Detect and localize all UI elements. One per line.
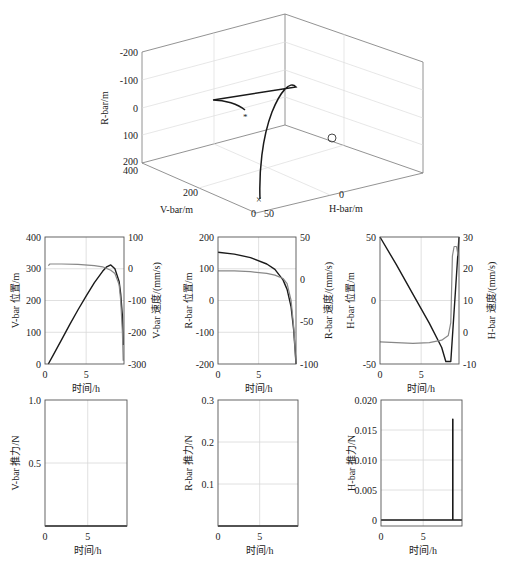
x-axis-label: 时间/h: [245, 382, 273, 394]
y-tick-label: 0.020: [355, 395, 378, 406]
y-right-tick-label: -10: [463, 359, 476, 370]
x-tick-label: 0: [378, 369, 383, 380]
y-tick-label: 0: [371, 295, 376, 306]
plot-frame: [218, 400, 298, 526]
y-tick: 200: [183, 187, 198, 198]
y-tick-label: 400: [26, 232, 41, 243]
y-right-tick-label: 0: [300, 274, 305, 285]
vbar-thrust-plot: 0.51.005V-bar 推力/N时间/h: [9, 395, 127, 557]
y-tick-label: 0.2: [202, 437, 215, 448]
figure-canvas: × * -200 -100 0 100 200 R-bar/m 400 200 …: [0, 0, 508, 569]
x-tick-label: 0: [216, 531, 221, 542]
x-tick-label: 5: [256, 369, 261, 380]
z-tick: 100: [123, 130, 138, 141]
y-right-tick-label: 50: [300, 232, 310, 243]
y-right-tick-label: -100: [300, 359, 318, 370]
y-right-tick-label: 30: [463, 232, 473, 243]
y-tick-label: 0.010: [355, 455, 378, 466]
3d-grid: [142, 33, 423, 195]
series-line: [218, 271, 296, 364]
x-tick-label: 5: [84, 369, 89, 380]
y-tick-label: -50: [363, 359, 376, 370]
z-axis-label: R-bar/m: [99, 91, 110, 125]
y-tick-label: 100: [26, 327, 41, 338]
3d-box: [142, 14, 423, 213]
hbar-position-velocity-plot: -5005005-100102030H-bar 速度/(mm/s)H-bar 位…: [344, 232, 498, 395]
start-marker: ×: [256, 194, 262, 205]
y-right-tick-label: 100: [128, 232, 143, 243]
plot-frame: [381, 400, 462, 526]
y-right-axis-label: R-bar 速度/(mm/s): [322, 262, 335, 339]
y-right-tick-label: 0: [128, 263, 133, 274]
z-tick: -200: [120, 47, 138, 58]
x-tick-label: 5: [257, 531, 262, 542]
y-tick-label: 0.005: [355, 485, 378, 496]
x-tick-label: 5: [419, 369, 424, 380]
series-line: [380, 247, 458, 344]
x-tick-label: 0: [43, 369, 48, 380]
y-tick-label: 0: [209, 295, 214, 306]
x-tick-label: 5: [85, 531, 90, 542]
x-tick-label: 0: [216, 369, 221, 380]
y-tick-label: 0.015: [355, 425, 378, 436]
y-tick-label: 200: [26, 295, 41, 306]
y-tick-label: 50: [366, 232, 376, 243]
y-right-tick-label: -50: [300, 316, 313, 327]
y-axis-label: R-bar 推力/N: [182, 435, 194, 490]
x-axis-label: 时间/h: [74, 544, 102, 556]
y-right-axis-label: V-bar 速度/(mm/s): [150, 262, 163, 339]
trajectory-3d-plot: × * -200 -100 0 100 200 R-bar/m 400 200 …: [99, 14, 423, 219]
y-axis-label: V-bar 推力/N: [9, 436, 21, 491]
hbar-thrust-plot: 00.0050.0100.0150.02005H-bar 推力/N时间/h: [345, 395, 462, 557]
y-right-axis-label: H-bar 速度/(mm/s): [485, 262, 498, 340]
x-axis-label: H-bar/m: [329, 203, 363, 214]
x-tick-label: 0: [379, 531, 384, 542]
trajectory-3d-curve: [213, 80, 296, 199]
y-tick-label: 0.5: [29, 458, 42, 469]
y-tick-label: -100: [196, 327, 214, 338]
y-right-tick-label: -200: [128, 327, 146, 338]
y-tick-label: 200: [199, 232, 214, 243]
x-axis-label: 时间/h: [72, 382, 100, 394]
y-tick: 400: [123, 165, 138, 176]
x-tick-label: 5: [421, 531, 426, 542]
x-tick: 50: [264, 208, 274, 219]
y-right-tick-label: 20: [463, 263, 473, 274]
y-right-tick-label: -300: [128, 359, 146, 370]
x-axis-label: 时间/h: [407, 382, 435, 394]
x-axis-label: 时间/h: [246, 544, 274, 556]
x-tick-label: 0: [43, 531, 48, 542]
vbar-position-velocity-plot: 010020030040005-300-200-1000100V-bar 速度/…: [9, 232, 163, 395]
end-marker: *: [243, 112, 248, 122]
y-tick-label: 0: [36, 359, 41, 370]
y-axis-label: H-bar 位置/m: [344, 272, 356, 329]
y-tick-label: 1.0: [29, 395, 42, 406]
rbar-thrust-plot: 0.10.20.305R-bar 推力/N时间/h: [182, 395, 298, 557]
series-line: [381, 419, 462, 520]
rbar-position-velocity-plot: -200-100010020005-100-50050R-bar 速度/(mm/…: [182, 232, 335, 395]
z-axis-ticks: -200 -100 0 100 200: [120, 47, 138, 167]
y-right-tick-label: 0: [463, 327, 468, 338]
z-tick: -100: [120, 75, 138, 86]
y-tick-label: 0.3: [202, 395, 215, 406]
z-tick: 0: [133, 103, 138, 114]
x-axis-label: 时间/h: [409, 544, 437, 556]
y-axis-label: R-bar 位置/m: [182, 272, 194, 328]
y-tick-label: 100: [199, 263, 214, 274]
y-axis-label: V-bar 位置/m: [9, 273, 21, 329]
y-axis-label: H-bar 推力/N: [345, 435, 357, 491]
y-tick-label: 0: [372, 515, 377, 526]
y-right-tick-label: 10: [463, 295, 473, 306]
y-right-tick-label: -100: [128, 295, 146, 306]
x-tick: 0: [339, 189, 344, 200]
y-tick-label: -200: [196, 359, 214, 370]
y-tick: 0: [251, 208, 256, 219]
y-tick-label: 0.1: [202, 479, 215, 490]
y-axis-label: V-bar/m: [160, 204, 193, 215]
subplots-2d: 010020030040005-300-200-1000100V-bar 速度/…: [9, 232, 498, 557]
target-marker: [328, 134, 336, 142]
y-tick-label: 300: [26, 263, 41, 274]
